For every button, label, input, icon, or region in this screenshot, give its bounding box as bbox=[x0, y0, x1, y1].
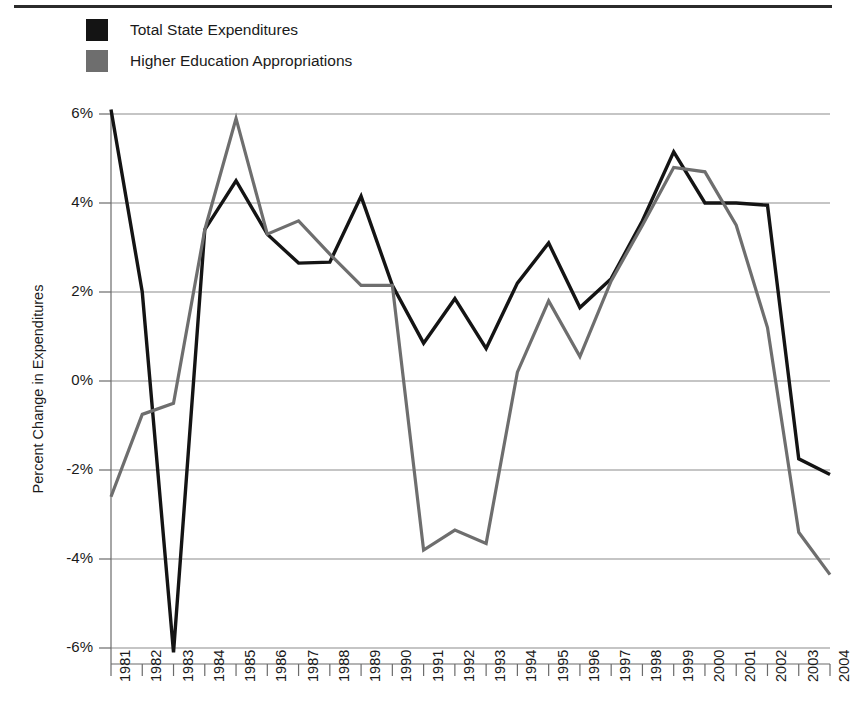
x-tick-label: 1999 bbox=[680, 650, 696, 682]
y-tick-marks bbox=[99, 114, 111, 648]
x-tick-label: 1987 bbox=[305, 650, 321, 682]
axis-lines bbox=[111, 114, 830, 664]
x-tick-label: 1984 bbox=[211, 650, 227, 682]
x-tick-label: 1994 bbox=[523, 650, 539, 682]
x-tick-label: 1983 bbox=[180, 650, 196, 682]
x-tick-label: 1990 bbox=[398, 650, 414, 682]
series-line-higher-education-appropriations bbox=[111, 118, 830, 574]
x-tick-label: 1981 bbox=[117, 650, 133, 682]
gridlines bbox=[111, 114, 830, 648]
x-tick-label: 2001 bbox=[742, 650, 758, 682]
x-tick-label: 1982 bbox=[148, 650, 164, 682]
x-tick-label: 2004 bbox=[836, 650, 852, 682]
x-tick-label: 1998 bbox=[648, 650, 664, 682]
y-tick-label: -6% bbox=[37, 638, 93, 655]
x-tick-label: 1985 bbox=[242, 650, 258, 682]
y-tick-label: 6% bbox=[37, 104, 93, 121]
y-tick-label: -4% bbox=[37, 549, 93, 566]
x-tick-label: 1988 bbox=[336, 650, 352, 682]
x-tick-label: 1986 bbox=[273, 650, 289, 682]
y-tick-label: 0% bbox=[37, 371, 93, 388]
y-tick-label: 4% bbox=[37, 193, 93, 210]
x-tick-label: 1996 bbox=[586, 650, 602, 682]
x-tick-label: 2000 bbox=[711, 650, 727, 682]
y-tick-label: 2% bbox=[37, 282, 93, 299]
x-tick-label: 1997 bbox=[617, 650, 633, 682]
x-tick-label: 1991 bbox=[430, 650, 446, 682]
x-tick-label: 1989 bbox=[367, 650, 383, 682]
x-tick-label: 1995 bbox=[555, 650, 571, 682]
x-tick-label: 2002 bbox=[773, 650, 789, 682]
x-tick-label: 2003 bbox=[805, 650, 821, 682]
y-tick-label: -2% bbox=[37, 460, 93, 477]
x-tick-label: 1992 bbox=[461, 650, 477, 682]
x-tick-label: 1993 bbox=[492, 650, 508, 682]
